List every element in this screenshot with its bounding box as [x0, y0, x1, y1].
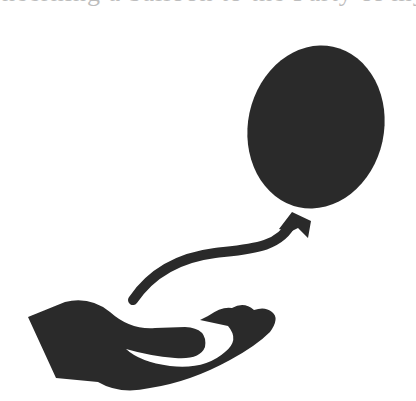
balloon-string-icon [133, 222, 292, 300]
balloon-icon [232, 33, 399, 222]
hand-balloon-illustration [0, 0, 416, 401]
open-hand-icon [28, 300, 276, 390]
